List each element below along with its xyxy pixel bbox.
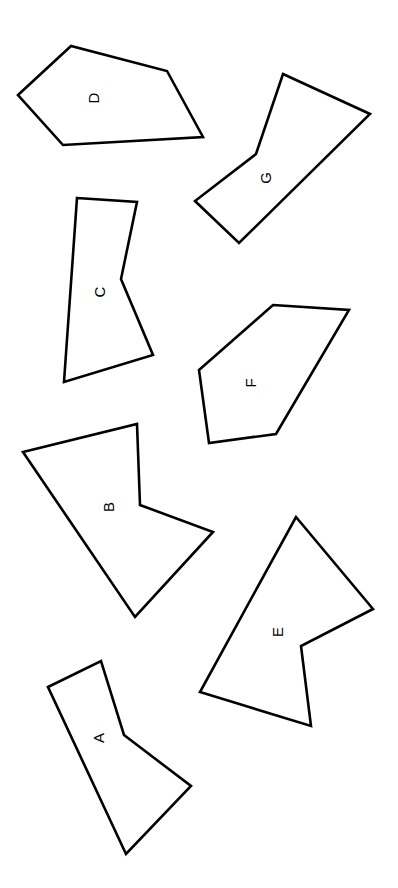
label-a: A [90, 733, 107, 743]
polygon-a [48, 661, 191, 854]
shape-f: F [199, 305, 349, 443]
label-c: C [91, 286, 108, 297]
polygon-e [200, 517, 373, 726]
polygon-f [199, 305, 349, 443]
shape-c: C [64, 198, 153, 382]
shape-b: B [23, 424, 213, 617]
label-g: G [257, 172, 274, 184]
shape-d: D [18, 46, 203, 145]
polygon-b [23, 424, 213, 617]
label-e: E [269, 627, 286, 637]
shape-g: G [195, 74, 370, 243]
label-f: F [242, 378, 259, 387]
polygon-c [64, 198, 153, 382]
label-d: D [85, 92, 102, 103]
label-b: B [100, 502, 117, 512]
polygon-d [18, 46, 203, 145]
shape-a: A [48, 661, 191, 854]
polygon-g [195, 74, 370, 243]
shapes-diagram: D G C F B E A [0, 0, 398, 888]
shape-e: E [200, 517, 373, 726]
